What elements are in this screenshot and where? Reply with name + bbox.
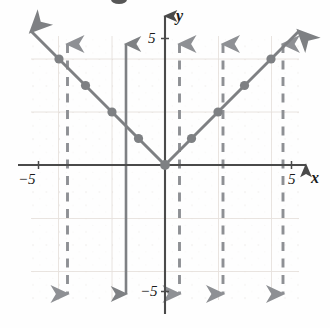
point-marker — [160, 160, 170, 170]
y-axis-tick-label-top: 5 — [148, 31, 156, 46]
point-marker — [81, 81, 90, 90]
point-marker — [187, 134, 196, 143]
point-marker — [213, 107, 222, 116]
point-marker — [54, 54, 63, 63]
point-marker — [134, 134, 143, 143]
x-axis-label: x — [311, 170, 319, 186]
point-marker — [266, 54, 275, 63]
figure-canvas: −5 5 5 −5 y x — [0, 0, 330, 328]
y-axis-tick-label-bottom: −5 — [140, 284, 158, 299]
point-marker — [107, 107, 116, 116]
x-axis-tick-label-right: 5 — [288, 172, 296, 187]
graph-svg — [0, 0, 330, 328]
y-axis-label: y — [176, 8, 183, 24]
point-marker — [240, 81, 249, 90]
x-axis-tick-label-left: −5 — [18, 172, 36, 187]
